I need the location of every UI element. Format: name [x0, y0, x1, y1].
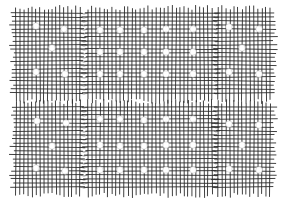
dot	[141, 27, 147, 33]
dot	[97, 71, 103, 77]
dot	[226, 121, 232, 127]
dot	[190, 116, 196, 122]
dot	[62, 71, 68, 77]
woven-mesh-illustration	[0, 0, 289, 199]
dot	[239, 142, 245, 148]
panel-top-left	[9, 5, 86, 104]
dot	[256, 167, 262, 173]
dot	[190, 167, 196, 173]
dot	[34, 118, 40, 124]
panel-top-middle	[81, 5, 220, 104]
dot	[256, 26, 262, 32]
dot	[239, 45, 245, 51]
dot	[97, 116, 103, 122]
dot	[33, 23, 39, 29]
dot	[141, 49, 147, 55]
dot	[117, 49, 123, 55]
dot	[117, 71, 123, 77]
dot	[190, 26, 196, 32]
dot	[226, 166, 232, 172]
dot	[163, 142, 169, 148]
dot	[163, 71, 169, 77]
dot	[190, 71, 196, 77]
dot	[163, 167, 169, 173]
dot	[141, 71, 147, 77]
panel-bottom-right	[211, 99, 278, 197]
dot	[117, 116, 123, 122]
dot	[63, 120, 69, 126]
dot	[33, 69, 39, 75]
panel-bottom-left	[9, 99, 87, 197]
dot	[117, 167, 123, 173]
dot	[97, 167, 103, 173]
dot	[97, 49, 103, 55]
dot	[163, 116, 169, 122]
dot	[256, 122, 262, 128]
dot	[62, 168, 68, 174]
dot	[61, 26, 67, 32]
panel-bottom-middle	[81, 99, 220, 198]
dot	[141, 143, 147, 149]
dot	[49, 143, 55, 149]
dot	[163, 26, 169, 32]
dot	[226, 24, 232, 30]
dot	[141, 117, 147, 123]
dot	[33, 165, 39, 171]
dot	[190, 49, 196, 55]
dot	[117, 143, 123, 149]
dot	[97, 27, 103, 33]
dot	[256, 71, 262, 77]
dot	[141, 167, 147, 173]
panel-top-right	[211, 5, 278, 104]
dot	[97, 142, 103, 148]
dot	[190, 142, 196, 148]
dot	[49, 45, 55, 51]
dot	[117, 27, 123, 33]
dot	[226, 69, 232, 75]
dot	[163, 49, 169, 55]
